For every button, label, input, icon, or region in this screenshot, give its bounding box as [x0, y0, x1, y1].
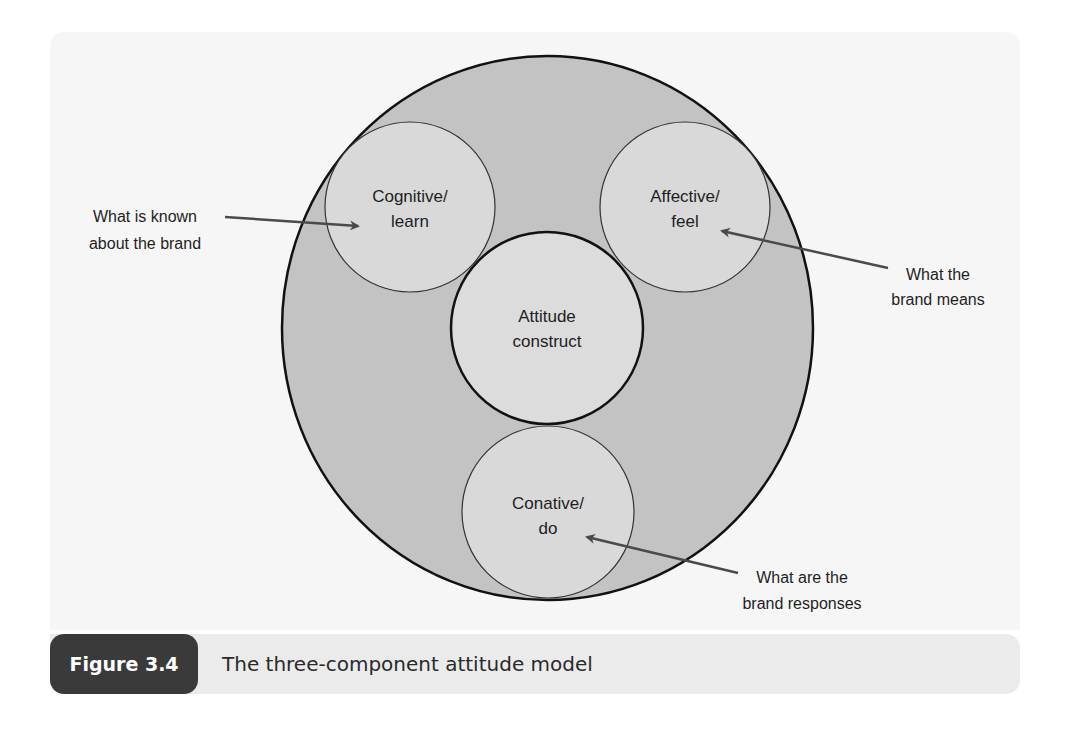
affective-annotation-line2: brand means — [891, 291, 984, 308]
center-label-line1: Attitude — [518, 307, 576, 326]
conative-annotation-line2: brand responses — [742, 595, 861, 612]
cognitive-annotation-line1: What is known — [93, 208, 197, 225]
cognitive-annotation-line2: about the brand — [89, 235, 201, 252]
affective-label-line2: feel — [671, 212, 698, 231]
center-label-line2: construct — [513, 332, 582, 351]
attitude-model-diagram: Cognitive/ learn Affective/ feel Attitud… — [0, 0, 1070, 734]
conative-label-line1: Conative/ — [512, 494, 584, 513]
cognitive-label-line1: Cognitive/ — [372, 187, 448, 206]
affective-circle — [600, 122, 770, 292]
conative-label-line2: do — [539, 519, 558, 538]
conative-annotation-line1: What are the — [756, 569, 848, 586]
figure-caption: The three-component attitude model — [222, 652, 593, 676]
affective-label-line1: Affective/ — [650, 187, 720, 206]
figure-number-badge: Figure 3.4 — [50, 634, 198, 694]
figure-caption-bar: Figure 3.4 The three-component attitude … — [50, 634, 1020, 694]
affective-annotation-line1: What the — [906, 266, 970, 283]
cognitive-label-line2: learn — [391, 212, 429, 231]
attitude-construct-circle — [451, 232, 643, 424]
cognitive-circle — [325, 122, 495, 292]
